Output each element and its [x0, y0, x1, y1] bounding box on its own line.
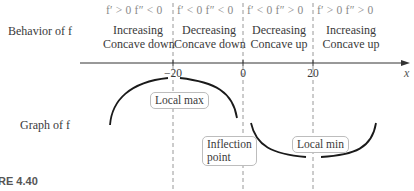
interval-condition: f′ > 0 f″ < 0 [106, 4, 162, 16]
figure-caption: RE 4.40 [0, 175, 38, 187]
tick-label-20: 20 [301, 67, 325, 79]
interval-monotonicity: Increasing [315, 23, 387, 37]
interval-monotonicity: Decreasing [174, 23, 244, 37]
inflection-line2: point [207, 151, 252, 164]
interval-concavity: Concave up [315, 37, 387, 51]
interval-description: Decreasing Concave up [244, 23, 314, 51]
interval-concavity: Concave down [103, 37, 173, 51]
inflection-line1: Inflection [207, 138, 252, 151]
interval-description: Increasing Concave up [315, 23, 387, 51]
interval-concavity: Concave up [244, 37, 314, 51]
behavior-row-label: Behavior of f [8, 24, 72, 39]
local-min-callout: Local min [292, 136, 349, 153]
interval-description: Increasing Concave down [103, 23, 173, 51]
local-max-callout: Local max [150, 92, 209, 109]
graph-row-label: Graph of f [20, 118, 70, 133]
interval-condition: f′ < 0 f″ > 0 [247, 4, 303, 16]
interval-condition: f′ > 0 f″ > 0 [317, 4, 373, 16]
x-axis-label: x [404, 66, 409, 81]
interval-monotonicity: Decreasing [244, 23, 314, 37]
inflection-point-callout: Inflection point [202, 136, 257, 166]
interval-condition: f′ < 0 f″ < 0 [177, 4, 233, 16]
interval-concavity: Concave down [174, 37, 244, 51]
tick-label-0: 0 [233, 67, 253, 79]
tick-label-neg20: −20 [158, 67, 188, 79]
interval-description: Decreasing Concave down [174, 23, 244, 51]
interval-monotonicity: Increasing [103, 23, 173, 37]
